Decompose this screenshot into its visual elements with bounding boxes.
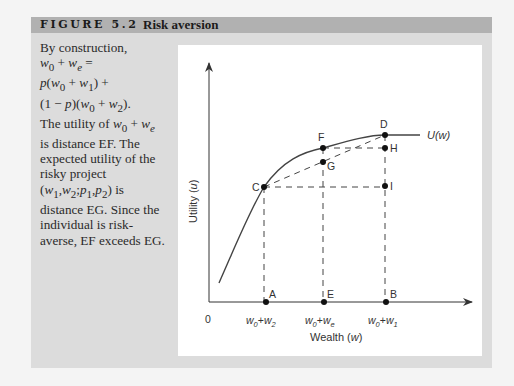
caption-equation-1: w0 + we =	[40, 55, 166, 75]
figure-title: Risk aversion	[143, 17, 218, 33]
caption-text: The utility of w0 + we is distance EF. T…	[40, 116, 166, 249]
point-G	[320, 159, 326, 165]
point-I	[382, 183, 388, 189]
x-axis-title: Wealth (w)	[310, 331, 362, 343]
caption-line: By construction,	[40, 40, 166, 55]
label-B: B	[390, 288, 397, 300]
label-A: A	[269, 288, 276, 300]
tick-w0-w2: w0+w2	[246, 314, 277, 329]
point-D	[382, 132, 388, 138]
label-H: H	[390, 142, 398, 154]
curve-label: U(w)	[427, 129, 451, 141]
origin-label: 0	[205, 313, 211, 325]
figure-frame: FIGURE 5.2 Risk aversion By construction…	[31, 17, 492, 368]
point-C	[261, 184, 267, 190]
caption-equation-2: p(w0 + w1) +	[40, 75, 166, 95]
figure-number: FIGURE 5.2	[40, 18, 138, 31]
label-D: D	[380, 118, 388, 130]
y-axis-title: Utility (u)	[187, 180, 199, 223]
label-F: F	[318, 131, 324, 143]
utility-chart: C F G D H I A E B 0 U(w) w0+w2 w0+we w0+…	[178, 45, 482, 356]
points	[261, 132, 389, 305]
figure-caption: By construction, w0 + we = p(w0 + w1) + …	[40, 40, 166, 248]
label-G: G	[327, 160, 335, 172]
x-tick-labels: w0+w2 w0+we w0+w1	[246, 314, 398, 329]
label-I: I	[390, 180, 393, 192]
point-H	[382, 145, 388, 151]
label-E: E	[327, 288, 334, 300]
label-C: C	[252, 181, 260, 193]
figure-header: FIGURE 5.2 Risk aversion	[31, 17, 492, 33]
tick-w0-w1: w0+w1	[368, 314, 398, 329]
tick-w0-we: w0+we	[305, 314, 335, 329]
caption-equation-3: (1 − p)(w0 + w2).	[40, 96, 166, 116]
point-B	[383, 299, 389, 305]
chart-panel: C F G D H I A E B 0 U(w) w0+w2 w0+we w0+…	[178, 45, 482, 356]
utility-curve	[219, 135, 420, 283]
point-F	[320, 145, 326, 151]
